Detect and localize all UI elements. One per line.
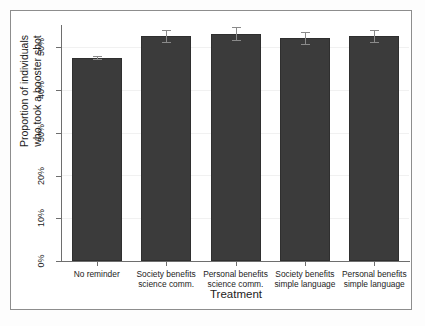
y-tick-label-30: 30% (28, 127, 54, 139)
bar (349, 36, 399, 261)
x-tick-label-line: Society benefits (270, 269, 339, 279)
x-tick-label: No reminder (62, 269, 131, 279)
error-cap-lower (232, 40, 241, 41)
error-bar (374, 30, 375, 42)
y-tick-label-20: 20% (28, 170, 54, 182)
error-bar (305, 32, 306, 44)
y-tick-mark-0 (56, 261, 62, 262)
x-axis-title: Treatment (62, 288, 410, 300)
x-tick-mark (97, 261, 98, 266)
y-tick-label-10: 10% (28, 212, 54, 224)
x-tick-label: Society benefitsscience comm. (131, 269, 200, 289)
error-cap-lower (370, 42, 379, 43)
x-tick-label-line: No reminder (62, 269, 131, 279)
bar (141, 36, 191, 261)
y-tick-label-50: 50% (28, 41, 54, 53)
x-tick-label: Society benefitssimple language (270, 269, 339, 289)
error-cap-lower (93, 59, 102, 60)
x-tick-label: Personal benefitssimple language (340, 269, 409, 289)
x-tick-mark (305, 261, 306, 266)
x-tick-label: Personal benefitsscience comm. (201, 269, 270, 289)
x-tick-label-line: Personal benefits (340, 269, 409, 279)
error-cap-lower (162, 42, 171, 43)
error-cap-lower (301, 44, 310, 45)
x-tick-mark (374, 261, 375, 266)
error-bar (236, 27, 237, 40)
bar (280, 38, 330, 261)
x-tick-mark (236, 261, 237, 266)
error-cap-upper (93, 56, 102, 57)
figure: Proportion of individuals who took a boo… (0, 0, 425, 326)
bar (72, 58, 122, 261)
plot-area (62, 25, 409, 261)
x-tick-label-line: Personal benefits (201, 269, 270, 279)
bar (211, 34, 261, 261)
y-tick-label-40: 40% (28, 84, 54, 96)
x-tick-label-line: Society benefits (131, 269, 200, 279)
error-cap-upper (162, 30, 171, 31)
error-bar (166, 30, 167, 42)
x-tick-mark (166, 261, 167, 266)
error-cap-upper (301, 32, 310, 33)
y-tick-label-0: 0% (28, 255, 54, 267)
error-cap-upper (370, 30, 379, 31)
error-cap-upper (232, 27, 241, 28)
